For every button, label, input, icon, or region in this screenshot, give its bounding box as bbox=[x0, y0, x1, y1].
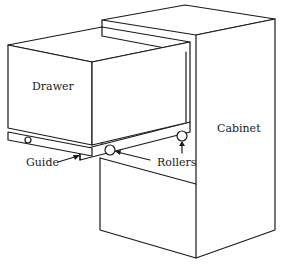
drawer-label: Drawer bbox=[32, 81, 74, 92]
drawer-roller-icon bbox=[25, 137, 31, 143]
rollers-label: Rollers bbox=[157, 157, 196, 168]
cabinet-label: Cabinet bbox=[217, 123, 261, 134]
rollers-arrow-front-icon bbox=[117, 152, 150, 160]
guide-label: Guide bbox=[26, 157, 59, 168]
roller-back-icon bbox=[177, 131, 187, 141]
roller-front-icon bbox=[105, 145, 115, 155]
drawer-cabinet-diagram: Drawer Cabinet Guide Rollers bbox=[0, 0, 282, 268]
